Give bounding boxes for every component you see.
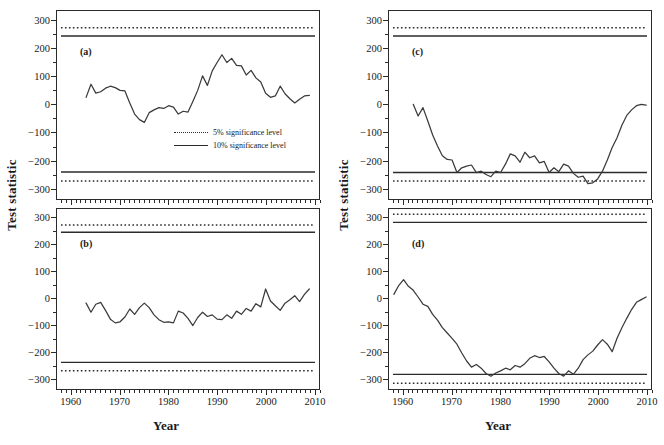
legend-label-5pct: 5% significance level — [213, 128, 282, 137]
x-minor-tick — [642, 390, 643, 393]
x-minor-tick — [569, 390, 570, 393]
panel-a: (a) 5% significance level 10% significan… — [56, 10, 320, 200]
x-minor-tick — [584, 390, 585, 393]
y-tick-mark — [383, 20, 388, 21]
x-minor-tick — [61, 390, 62, 393]
y-tick-label: −300 — [28, 374, 50, 385]
panel-d-plot — [389, 209, 651, 389]
x-minor-tick — [76, 390, 77, 393]
y-tick-mark — [383, 48, 388, 49]
y-minor-tick — [53, 175, 56, 176]
panel-b-frame — [56, 208, 320, 390]
x-minor-tick — [623, 200, 624, 203]
x-minor-tick — [80, 390, 81, 393]
y-tick-mark — [51, 48, 56, 49]
y-tick-label: 200 — [34, 239, 50, 250]
x-minor-tick — [320, 200, 321, 203]
x-minor-tick — [261, 390, 262, 393]
x-minor-tick — [198, 200, 199, 203]
y-tick-mark — [383, 352, 388, 353]
x-minor-tick — [442, 200, 443, 203]
x-minor-tick — [618, 390, 619, 393]
x-tick-mark — [500, 200, 501, 205]
x-minor-tick — [505, 390, 506, 393]
x-minor-tick — [456, 200, 457, 203]
y-tick-mark — [383, 217, 388, 218]
x-minor-tick — [164, 200, 165, 203]
x-minor-tick — [100, 200, 101, 203]
x-tick-mark — [403, 200, 404, 205]
y-minor-tick — [385, 90, 388, 91]
x-minor-tick — [466, 390, 467, 393]
x-minor-tick — [559, 390, 560, 393]
x-minor-tick — [535, 200, 536, 203]
x-minor-tick — [398, 390, 399, 393]
y-tick-label: −100 — [28, 127, 50, 138]
x-minor-tick — [247, 390, 248, 393]
x-minor-tick — [496, 200, 497, 203]
x-minor-tick — [115, 390, 116, 393]
x-minor-tick — [193, 200, 194, 203]
y-minor-tick — [53, 147, 56, 148]
x-tick-mark — [315, 200, 316, 205]
y-minor-tick — [385, 175, 388, 176]
x-minor-tick — [393, 200, 394, 203]
x-minor-tick — [320, 390, 321, 393]
y-tick-label: 300 — [34, 212, 50, 223]
y-minor-tick — [385, 285, 388, 286]
x-minor-tick — [227, 390, 228, 393]
x-minor-tick — [208, 390, 209, 393]
x-tick-label: 2000 — [256, 396, 277, 407]
x-minor-tick — [471, 390, 472, 393]
x-minor-tick — [520, 200, 521, 203]
x-minor-tick — [417, 200, 418, 203]
x-minor-tick — [510, 200, 511, 203]
y-tick-mark — [51, 104, 56, 105]
y-tick-mark — [383, 161, 388, 162]
x-tick-label: 1980 — [490, 396, 511, 407]
x-minor-tick — [579, 200, 580, 203]
y-minor-tick — [385, 339, 388, 340]
x-minor-tick — [222, 200, 223, 203]
x-minor-tick — [574, 200, 575, 203]
x-minor-tick — [95, 200, 96, 203]
legend-item-10pct: 10% significance level — [174, 141, 286, 150]
x-minor-tick — [208, 200, 209, 203]
x-minor-tick — [281, 200, 282, 203]
x-tick-mark — [120, 390, 121, 395]
legend-swatch-solid — [174, 145, 208, 146]
x-minor-tick — [144, 390, 145, 393]
x-minor-tick — [408, 200, 409, 203]
y-tick-mark — [51, 217, 56, 218]
x-minor-tick — [432, 390, 433, 393]
x-minor-tick — [90, 200, 91, 203]
x-tick-label: 1990 — [539, 396, 560, 407]
x-minor-tick — [412, 200, 413, 203]
y-minor-tick — [53, 90, 56, 91]
x-minor-tick — [603, 390, 604, 393]
x-minor-tick — [252, 390, 253, 393]
x-minor-tick — [442, 390, 443, 393]
x-minor-tick — [544, 390, 545, 393]
x-minor-tick — [437, 390, 438, 393]
x-minor-tick — [608, 390, 609, 393]
x-minor-tick — [129, 200, 130, 203]
y-tick-label: 100 — [366, 71, 382, 82]
panel-a-plot — [57, 11, 319, 199]
x-minor-tick — [574, 390, 575, 393]
y-tick-label: −200 — [28, 347, 50, 358]
y-tick-label: −200 — [360, 155, 382, 166]
y-minor-tick — [53, 62, 56, 63]
x-tick-label: 1980 — [158, 396, 179, 407]
legend-item-5pct: 5% significance level — [174, 128, 286, 137]
x-minor-tick — [183, 200, 184, 203]
x-minor-tick — [105, 390, 106, 393]
y-tick-label: −300 — [28, 183, 50, 194]
x-minor-tick — [486, 390, 487, 393]
x-minor-tick — [564, 200, 565, 203]
legend: 5% significance level 10% significance l… — [174, 128, 286, 154]
x-minor-tick — [188, 200, 189, 203]
x-tick-label: 1960 — [60, 396, 81, 407]
x-tick-mark — [266, 200, 267, 205]
x-minor-tick — [242, 200, 243, 203]
